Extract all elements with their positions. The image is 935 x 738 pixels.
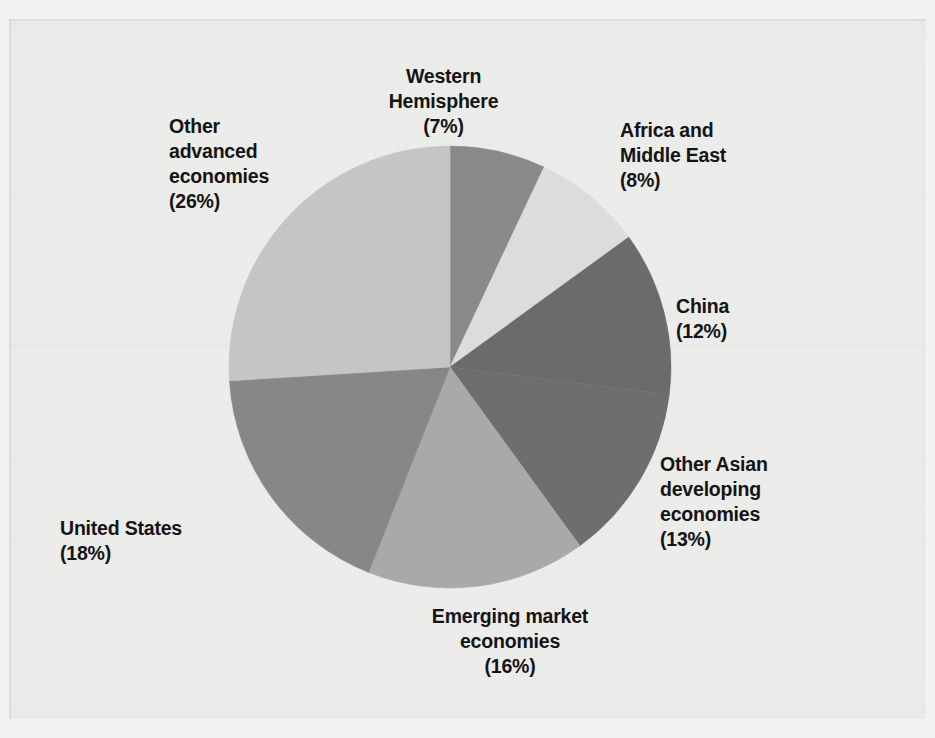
slice-label-emerging-market: Emerging market economies (16%) (380, 604, 640, 679)
slice-label-other-asian-developing: Other Asian developing economies (13%) (660, 452, 890, 552)
figure-container: Western Hemisphere (7%) Africa and Middl… (0, 0, 935, 738)
slice-label-china: China (12%) (676, 294, 856, 344)
slice-label-united-states: United States (18%) (60, 516, 300, 566)
slice-label-africa-middle-east: Africa and Middle East (8%) (620, 118, 840, 193)
pie-chart: Western Hemisphere (7%) Africa and Middl… (0, 0, 935, 738)
slice-label-other-advanced: Other advanced economies (26%) (169, 114, 389, 214)
